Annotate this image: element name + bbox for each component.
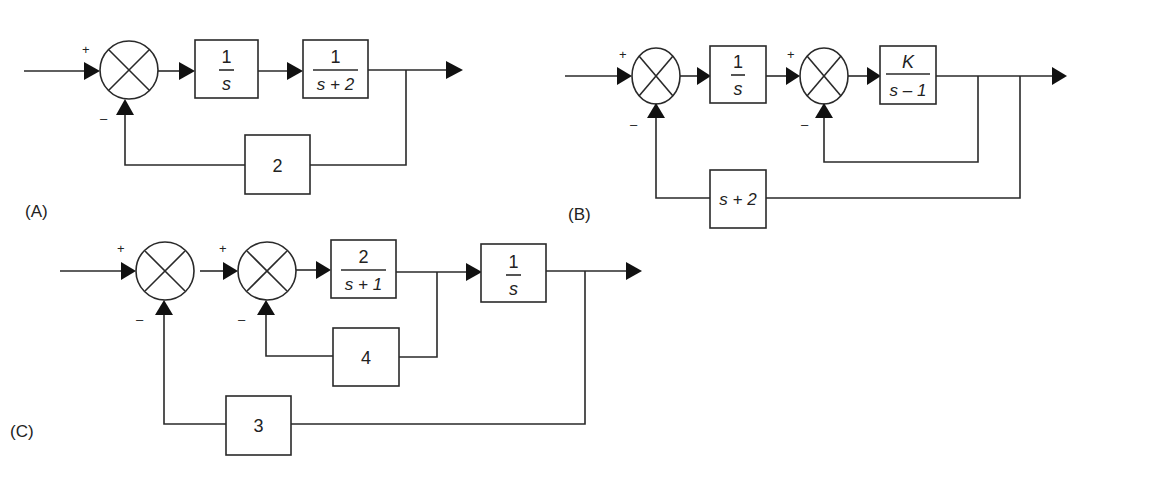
arrow-icon — [179, 62, 195, 80]
summing-junction-2 — [238, 242, 296, 300]
block-1-over-s: 1 s — [710, 46, 766, 103]
minus-sign: – — [801, 117, 809, 132]
denominator: s — [222, 74, 231, 94]
feedback-line — [125, 113, 245, 165]
minus-sign: – — [136, 312, 144, 327]
diagram-label: (B) — [568, 205, 591, 224]
svg-text:s: s — [734, 79, 743, 99]
arrow-icon — [647, 103, 665, 118]
svg-text:2: 2 — [272, 156, 282, 176]
plus-sign: + — [117, 241, 125, 256]
svg-text:s + 1: s + 1 — [345, 275, 382, 294]
denominator: s + 2 — [317, 75, 355, 94]
block-1-over-s: 1 s — [481, 244, 546, 302]
arrow-icon — [617, 67, 632, 85]
arrow-icon — [257, 300, 275, 315]
svg-text:1: 1 — [508, 252, 518, 272]
output-arrow-icon — [1052, 67, 1067, 85]
block-feedback-4: 4 — [333, 328, 399, 386]
plus-sign: + — [219, 241, 227, 256]
diagram-a: + – 1 s 1 s + 2 2 (A) — [24, 40, 463, 221]
block-feedback-2: 2 — [245, 135, 310, 194]
arrow-icon — [155, 300, 173, 315]
arrow-icon — [116, 99, 134, 115]
summing-junction-2 — [800, 48, 848, 104]
block-2-over-s-plus-1: 2 s + 1 — [331, 240, 396, 298]
diagram-b: + – 1 s + – K s – 1 — [565, 46, 1067, 228]
plus-sign: + — [619, 47, 627, 62]
block-1-over-s-plus-2: 1 s + 2 — [303, 40, 368, 98]
svg-text:4: 4 — [361, 348, 371, 368]
numerator: 1 — [330, 47, 340, 67]
svg-text:s – 1: s – 1 — [890, 81, 927, 100]
plus-sign: + — [82, 42, 90, 57]
minus-sign: – — [630, 117, 638, 132]
block-1-over-s: 1 s — [195, 40, 258, 98]
minus-sign: – — [238, 312, 246, 327]
output-arrow-icon — [626, 262, 642, 280]
output-arrow-icon — [446, 61, 463, 79]
numerator: 1 — [221, 47, 231, 67]
svg-text:2: 2 — [358, 247, 368, 267]
svg-text:s: s — [509, 279, 518, 299]
block-diagrams: + – 1 s 1 s + 2 2 (A) — [0, 0, 1167, 483]
arrow-icon — [867, 67, 881, 85]
block-k-over-s-minus-1: K s – 1 — [880, 46, 936, 104]
arrow-icon — [287, 62, 303, 80]
diagram-label: (C) — [10, 422, 34, 441]
summing-junction-1 — [136, 242, 194, 300]
svg-text:3: 3 — [253, 416, 263, 436]
diagram-c: + – + – 2 s + 1 1 s — [10, 240, 642, 455]
arrow-icon — [697, 67, 711, 85]
minus-sign: – — [100, 111, 108, 126]
arrow-icon — [466, 263, 482, 281]
plus-sign: + — [787, 47, 795, 62]
diagram-label: (A) — [25, 202, 48, 221]
feedback-line — [656, 116, 710, 198]
arrow-icon — [223, 262, 238, 280]
arrow-icon — [121, 262, 136, 280]
svg-text:K: K — [902, 52, 915, 72]
feedback-line — [164, 314, 226, 424]
arrow-icon — [84, 62, 100, 80]
arrow-icon — [316, 261, 331, 279]
svg-text:1: 1 — [733, 52, 743, 72]
block-feedback-3: 3 — [226, 396, 291, 455]
summing-junction — [100, 41, 158, 99]
feedback-line — [266, 314, 333, 356]
feedback-line — [399, 272, 437, 357]
svg-text:s + 2: s + 2 — [719, 190, 757, 209]
arrow-icon — [786, 67, 800, 85]
arrow-icon — [815, 103, 833, 118]
summing-junction-1 — [632, 48, 680, 104]
block-feedback-s-plus-2: s + 2 — [710, 170, 766, 228]
